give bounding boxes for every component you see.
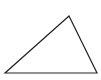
triangle-diagram [0, 0, 101, 80]
triangle [5, 16, 97, 73]
